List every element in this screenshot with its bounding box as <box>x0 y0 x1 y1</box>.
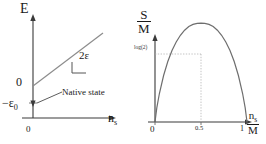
y-axis-arrowhead <box>30 14 35 21</box>
native-state-marker <box>30 101 35 108</box>
native-energy-label: −ε0 <box>2 97 18 113</box>
ns-over-M-numerator: ns <box>247 110 259 125</box>
panel-entropy-vs-ns-over-M: S M log(2) 0 0.5 1 ns M <box>133 0 266 144</box>
panel-energy-vs-ns: E 2ε 0 −ε0 Native state 0 ns <box>0 0 133 144</box>
slope-triangle-marker <box>72 62 86 73</box>
y-axis-label-energy: E <box>20 2 29 16</box>
max-entropy-label: log(2) <box>134 45 147 51</box>
x-tick-label-0: 0 <box>150 125 155 134</box>
y-axis-arrowhead-right <box>152 34 157 41</box>
x-axis-label-ns: ns <box>108 112 117 128</box>
zero-energy-label: 0 <box>16 76 22 88</box>
native-state-annotation: Native state <box>62 88 105 97</box>
x-axis-label-ns-over-M: ns M <box>247 110 259 136</box>
energy-line <box>33 33 103 86</box>
ns-over-M-denominator: M <box>247 125 259 136</box>
x-tick-label-1: 1 <box>240 125 244 133</box>
entropy-numerator: S <box>137 8 151 22</box>
y-axis-label-entropy: S M <box>137 8 151 36</box>
ns-over-M-fraction: ns M <box>247 110 259 136</box>
native-state-pointer <box>37 92 62 103</box>
entropy-curve <box>155 23 247 122</box>
slope-label: 2ε <box>79 50 89 61</box>
x-origin-tick-label-left: 0 <box>26 125 31 134</box>
ns-subscript-left: s <box>114 118 117 127</box>
native-energy-base: −ε <box>2 96 14 110</box>
ns-subscript-right: s <box>254 115 257 124</box>
entropy-denominator: M <box>137 22 151 35</box>
x-tick-label-half: 0.5 <box>195 125 203 132</box>
native-energy-subscript: 0 <box>14 103 18 112</box>
entropy-fraction: S M <box>137 8 151 36</box>
figure-container: E 2ε 0 −ε0 Native state 0 ns <box>0 0 266 144</box>
